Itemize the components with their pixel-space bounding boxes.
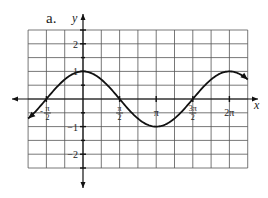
svg-text:π: π [45,104,49,113]
x-tick-label: 3π2 [189,104,197,122]
y-tick-label: −2 [67,149,78,160]
svg-text:2: 2 [45,113,49,122]
svg-text:3π: 3π [189,104,197,113]
y-tick-label: 1 [73,66,78,77]
curve-arrowhead-icon [240,73,247,80]
y-axis-arrow-down-icon [81,182,86,188]
svg-text:2: 2 [191,113,195,122]
svg-text:2: 2 [118,113,122,122]
x-axis-label: x [253,98,260,112]
y-axis-arrow-up-icon [81,14,86,20]
x-tick-label: 2π [224,107,234,118]
x-axis-arrow-left-icon [12,97,18,102]
y-tick-label: −1 [67,122,78,133]
x-tick-label: - [40,106,43,116]
cosine-graph: -π2π2π3π22π21−1−2 a. y x [0,0,268,198]
x-tick-label: π2 [116,104,123,122]
axes [12,14,258,188]
x-tick-label: π [154,107,159,118]
y-axis-label: y [71,11,78,25]
svg-text:π: π [118,104,122,113]
figure-label: a. [46,10,56,26]
x-tick-label: π2 [44,104,51,122]
y-tick-label: 2 [73,39,78,50]
